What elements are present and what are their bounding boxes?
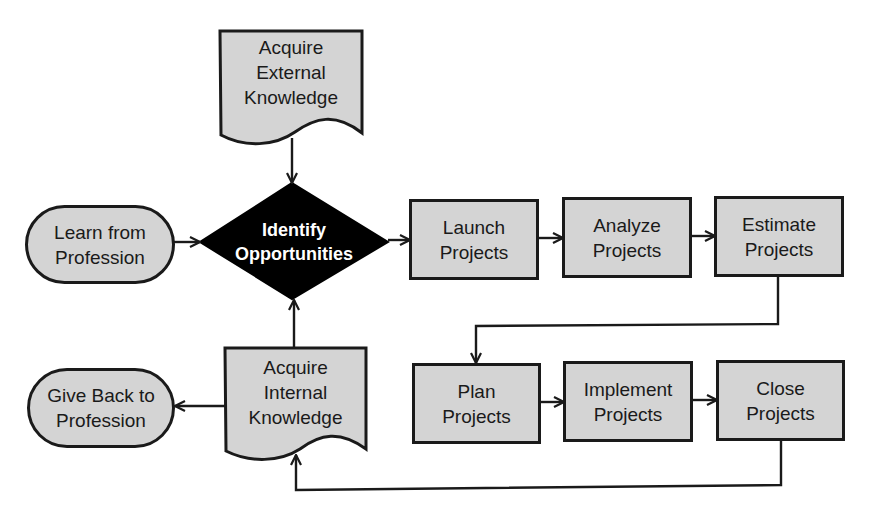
give-back-to-profession: Give Back to Profession [27,368,175,448]
implement-projects: Implement Projects [563,361,693,442]
edge-close-to-internal [296,440,781,490]
learn-from-profession: Learn from Profession [25,205,175,284]
launch-projects: Launch Projects [409,199,539,280]
close-projects: Close Projects [716,360,845,441]
estimate-projects: Estimate Projects [714,196,844,277]
acquire-internal-knowledge: Acquire Internal Knowledge [225,355,366,445]
analyze-projects: Analyze Projects [562,197,692,278]
edge-estimate-to-plan [476,276,778,363]
identify-opportunities: Identify Opportunities [200,212,388,272]
plan-projects: Plan Projects [412,363,541,444]
acquire-external-knowledge: Acquire External Knowledge [220,35,362,125]
